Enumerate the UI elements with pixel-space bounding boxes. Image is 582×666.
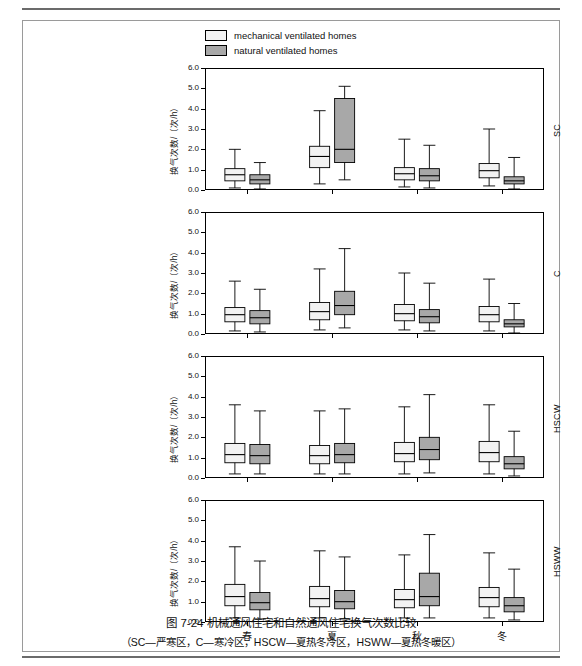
x-tick-mark <box>417 478 418 482</box>
y-tick-label: 5.0 <box>175 515 199 524</box>
x-tick-mark <box>332 190 333 194</box>
y-tick-mark <box>201 500 205 501</box>
y-tick-mark <box>201 478 205 479</box>
y-tick-label: 0.0 <box>175 185 199 194</box>
y-tick-mark <box>201 458 205 459</box>
legend-swatch-natural <box>205 45 227 56</box>
y-tick-label: 0.0 <box>175 473 199 482</box>
x-tick-mark <box>417 190 418 194</box>
y-tick-label: 2.0 <box>175 144 199 153</box>
y-tick-mark <box>201 397 205 398</box>
y-tick-label: 1.0 <box>175 309 199 318</box>
y-tick-label: 6.0 <box>175 63 199 72</box>
y-tick-label: 6.0 <box>175 351 199 360</box>
y-tick-label: 4.0 <box>175 248 199 257</box>
figure-caption-sub: （SC—严寒区，C—寒冷区，HSCW—夏热冬冷区，HSWW—夏热冬暖区） <box>0 634 582 649</box>
x-tick-mark <box>502 190 503 194</box>
y-tick-mark <box>201 273 205 274</box>
legend-label-mechanical: mechanical ventilated homes <box>234 30 357 41</box>
panel-label-hsww: HSWW <box>552 546 562 577</box>
legend-swatch-mechanical <box>205 30 227 41</box>
y-tick-label: 1.0 <box>175 597 199 606</box>
y-tick-mark <box>201 129 205 130</box>
page-rule-top <box>22 8 560 10</box>
y-tick-label: 4.0 <box>175 536 199 545</box>
y-tick-label: 3.0 <box>175 124 199 133</box>
y-tick-label: 2.0 <box>175 432 199 441</box>
figure-page: mechanical ventilated homes natural vent… <box>0 0 582 666</box>
x-tick-mark <box>247 334 248 338</box>
x-tick-mark <box>502 478 503 482</box>
chart-legend: mechanical ventilated homes natural vent… <box>205 30 357 60</box>
x-tick-mark <box>417 334 418 338</box>
plot-area-hsww <box>205 500 544 622</box>
x-tick-mark <box>247 478 248 482</box>
y-tick-label: 6.0 <box>175 207 199 216</box>
y-tick-label: 5.0 <box>175 227 199 236</box>
plot-area-sc <box>205 68 544 190</box>
y-tick-mark <box>201 190 205 191</box>
y-tick-label: 2.0 <box>175 288 199 297</box>
y-tick-mark <box>201 356 205 357</box>
y-tick-mark <box>201 149 205 150</box>
y-tick-mark <box>201 253 205 254</box>
y-tick-mark <box>201 581 205 582</box>
plot-area-hscw <box>205 356 544 478</box>
y-tick-label: 5.0 <box>175 83 199 92</box>
panel-label-hscw: HSCW <box>552 404 562 433</box>
panel-label-c: C <box>552 270 562 277</box>
y-tick-label: 6.0 <box>175 495 199 504</box>
plot-area-c <box>205 212 544 334</box>
x-tick-mark <box>332 334 333 338</box>
y-tick-label: 5.0 <box>175 371 199 380</box>
legend-item-mechanical: mechanical ventilated homes <box>205 30 357 41</box>
y-tick-label: 3.0 <box>175 556 199 565</box>
y-tick-mark <box>201 293 205 294</box>
y-tick-label: 4.0 <box>175 104 199 113</box>
y-tick-label: 3.0 <box>175 268 199 277</box>
y-tick-mark <box>201 602 205 603</box>
x-tick-mark <box>502 334 503 338</box>
figure-caption: 图 7-24 机械通风住宅和自然通风住宅换气次数比较 <box>0 614 582 630</box>
y-tick-mark <box>201 109 205 110</box>
y-tick-mark <box>201 334 205 335</box>
y-tick-mark <box>201 314 205 315</box>
legend-item-natural: natural ventilated homes <box>205 45 357 56</box>
x-tick-mark <box>247 190 248 194</box>
legend-label-natural: natural ventilated homes <box>234 45 338 56</box>
y-tick-label: 0.0 <box>175 329 199 338</box>
y-tick-label: 2.0 <box>175 576 199 585</box>
y-tick-mark <box>201 541 205 542</box>
y-tick-mark <box>201 232 205 233</box>
x-tick-mark <box>332 478 333 482</box>
y-tick-label: 4.0 <box>175 392 199 401</box>
y-tick-mark <box>201 68 205 69</box>
y-tick-mark <box>201 561 205 562</box>
panel-label-sc: SC <box>552 124 562 137</box>
y-tick-mark <box>201 170 205 171</box>
y-tick-mark <box>201 417 205 418</box>
y-tick-label: 1.0 <box>175 165 199 174</box>
y-tick-mark <box>201 376 205 377</box>
y-tick-label: 1.0 <box>175 453 199 462</box>
y-tick-mark <box>201 520 205 521</box>
y-tick-label: 3.0 <box>175 412 199 421</box>
y-tick-mark <box>201 437 205 438</box>
y-tick-mark <box>201 212 205 213</box>
y-tick-mark <box>201 88 205 89</box>
page-rule-bottom <box>22 656 560 658</box>
